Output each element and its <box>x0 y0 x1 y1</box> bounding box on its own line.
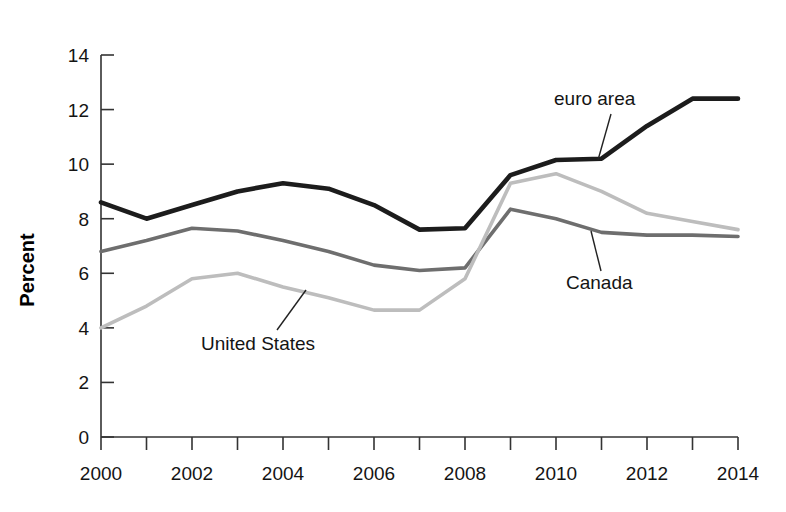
chart-canvas: 02468101214 2000200220042006200820102012… <box>0 0 786 512</box>
x-tick-label: 2012 <box>626 463 668 484</box>
series-label-canada: Canada <box>566 272 633 293</box>
series-label-euro-area: euro area <box>554 88 636 109</box>
y-tick-label: 2 <box>78 372 89 393</box>
y-axis-title: Percent <box>16 233 38 307</box>
y-tick-label: 4 <box>78 318 89 339</box>
x-tick-label: 2002 <box>171 463 213 484</box>
data-series-group <box>101 99 738 328</box>
y-tick-label: 10 <box>68 154 89 175</box>
y-tick-label: 0 <box>78 427 89 448</box>
series-line-canada <box>101 209 738 270</box>
x-tick-label: 2004 <box>262 463 305 484</box>
x-tick-label: 2014 <box>717 463 760 484</box>
x-tick-label: 2010 <box>535 463 577 484</box>
y-tick-label: 14 <box>68 45 90 66</box>
series-label-united-states: United States <box>201 333 315 354</box>
x-tick-label: 2000 <box>80 463 122 484</box>
x-axis-tick-group: 20002002200420062008201020122014 <box>80 437 760 484</box>
leader-line-united-states <box>277 290 306 330</box>
series-annotation-group: euro areaCanadaUnited States <box>201 88 636 354</box>
y-tick-label: 8 <box>78 209 89 230</box>
leader-line-canada <box>591 231 601 271</box>
y-tick-label: 6 <box>78 263 89 284</box>
unemployment-rate-line-chart: 02468101214 2000200220042006200820102012… <box>0 0 786 512</box>
y-tick-label: 12 <box>68 100 89 121</box>
x-tick-label: 2006 <box>353 463 395 484</box>
series-line-united-states <box>101 174 738 328</box>
x-tick-label: 2008 <box>444 463 486 484</box>
y-axis-tick-group: 02468101214 <box>68 45 114 448</box>
